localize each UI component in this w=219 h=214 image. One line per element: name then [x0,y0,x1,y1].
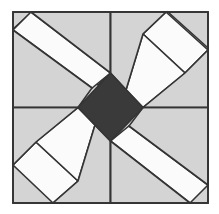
quilt-block-canvas [0,0,219,214]
quilt-block-figure [0,0,219,214]
